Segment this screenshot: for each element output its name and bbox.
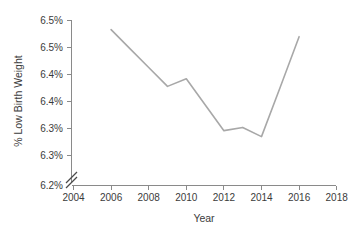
x-tick-label: 2014 bbox=[250, 192, 273, 203]
y-tick-label: 6.4% bbox=[40, 96, 63, 107]
x-tick-label: 2016 bbox=[288, 192, 311, 203]
x-tick-label: 2006 bbox=[100, 192, 123, 203]
chart-container: 6.5% 6.5% 6.4% 6.4% 6.3% 6.3% 6.2% 2004 … bbox=[0, 0, 351, 235]
y-tick-label: 6.3% bbox=[40, 150, 63, 161]
y-tick-label: 6.5% bbox=[40, 42, 63, 53]
line-chart: 6.5% 6.5% 6.4% 6.4% 6.3% 6.3% 6.2% 2004 … bbox=[0, 0, 351, 235]
y-tick-marks bbox=[67, 21, 72, 156]
x-tick-marks bbox=[74, 186, 337, 191]
y-tick-label: 6.3% bbox=[40, 123, 63, 134]
x-tick-label: 2008 bbox=[138, 192, 161, 203]
y-tick-label: 6.2% bbox=[40, 180, 63, 191]
x-tick-label: 2012 bbox=[213, 192, 236, 203]
x-tick-label: 2010 bbox=[175, 192, 198, 203]
x-axis-title: Year bbox=[193, 212, 215, 224]
x-tick-label: 2004 bbox=[62, 192, 85, 203]
y-tick-label: 6.5% bbox=[40, 15, 63, 26]
y-axis-title: % Low Birth Weight bbox=[12, 55, 24, 147]
y-tick-label: 6.4% bbox=[40, 69, 63, 80]
data-series-line bbox=[111, 30, 299, 137]
x-tick-label: 2018 bbox=[326, 192, 349, 203]
